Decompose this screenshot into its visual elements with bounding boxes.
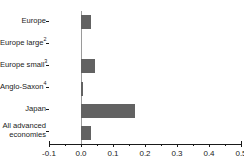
bar-anglo-saxon xyxy=(81,82,83,96)
x-tick-label-0p0: 0.0 xyxy=(66,149,96,158)
footnote-marker-4: 4 xyxy=(43,80,46,86)
x-tick-neg0p1 xyxy=(49,144,50,147)
bar-all-advanced-economies xyxy=(81,126,91,140)
bar-row-europe xyxy=(49,11,241,33)
x-tick-label-0p2: 0.2 xyxy=(130,149,160,158)
y-axis-labels: Europe Europe large2 Europe small3 Anglo… xyxy=(0,11,46,144)
y-axis-label-all-advanced-economies: All advanced economies xyxy=(0,122,46,139)
x-tick-0p1 xyxy=(113,144,114,147)
x-tick-0p4 xyxy=(209,144,210,147)
x-tick-label-0p4: 0.4 xyxy=(194,149,224,158)
x-tick-label-neg0p1: -0.1 xyxy=(34,149,64,158)
x-tick-minor xyxy=(97,144,98,146)
bar-japan xyxy=(81,104,135,118)
x-tick-0p5 xyxy=(241,144,242,147)
bar-europe-small xyxy=(81,59,95,73)
y-axis-label-anglo-saxon: Anglo-Saxon4 xyxy=(0,83,46,92)
y-axis-label-europe-large: Europe large2 xyxy=(0,39,46,48)
bar-chart: Europe Europe large2 Europe small3 Anglo… xyxy=(0,0,244,168)
x-tick-label-0p5: 0.5 xyxy=(226,149,244,158)
bar-row-europe-large xyxy=(49,33,241,55)
bar-row-japan xyxy=(49,100,241,122)
x-tick-minor xyxy=(65,144,66,146)
x-tick-minor xyxy=(129,144,130,146)
plot-area xyxy=(49,11,241,144)
x-tick-0p3 xyxy=(177,144,178,147)
y-axis-label-japan: Japan xyxy=(0,105,46,114)
x-tick-label-0p3: 0.3 xyxy=(162,149,192,158)
x-tick-label-0p1: 0.1 xyxy=(98,149,128,158)
bar-row-anglo-saxon xyxy=(49,78,241,100)
x-tick-minor xyxy=(161,144,162,146)
x-tick-0p0 xyxy=(81,144,82,147)
footnote-marker-2: 2 xyxy=(43,36,46,42)
x-tick-minor xyxy=(193,144,194,146)
bar-row-all-advanced-economies xyxy=(49,122,241,144)
bar-europe xyxy=(81,15,91,29)
x-tick-0p2 xyxy=(145,144,146,147)
y-axis-label-europe: Europe xyxy=(0,17,46,26)
x-tick-minor xyxy=(225,144,226,146)
footnote-marker-3: 3 xyxy=(44,58,47,64)
y-axis-label-europe-small: Europe small3 xyxy=(0,61,46,70)
chart-title-faint xyxy=(0,0,244,7)
bar-row-europe-small xyxy=(49,55,241,77)
